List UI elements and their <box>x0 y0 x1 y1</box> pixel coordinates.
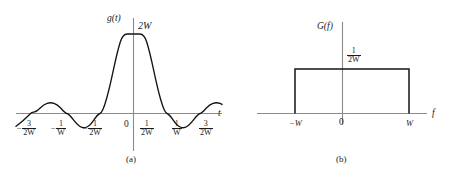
fraction: 1W <box>172 120 182 138</box>
fraction-denominator: 2W <box>140 129 154 137</box>
panel-a-xtick-3-2w: 32W <box>199 120 213 138</box>
fraction-denominator: W <box>172 129 182 137</box>
panel-a-y-axis-label: g(t) <box>107 14 121 24</box>
panel-a-peak-label: 2W <box>138 21 151 31</box>
panel-b-caption: (b) <box>336 155 347 164</box>
panel-b-x-axis-label: f <box>432 109 435 119</box>
panel-a-x-axis-label: t <box>218 109 221 119</box>
fraction: 32W <box>199 120 213 138</box>
fraction-denominator: 2W <box>347 56 361 64</box>
panel-a-caption: (a) <box>126 155 136 164</box>
fraction-denominator: 2W <box>199 129 213 137</box>
panel-a-xtick-1-w: 1W <box>172 120 182 138</box>
panel-a-sinc-plot: g(t) 2W t −32W −1W −12W 0 12W 1W 32W <box>0 0 232 183</box>
figure-root: g(t) 2W t −32W −1W −12W 0 12W 1W 32W <box>0 0 463 183</box>
panel-a-svg <box>0 0 232 183</box>
panel-a-xtick-1-2w: 12W <box>140 120 154 138</box>
fraction: 12W <box>88 120 102 138</box>
fraction: 1W <box>56 120 66 138</box>
fraction: 32W <box>22 120 36 138</box>
panel-b-origin-label: 0 <box>339 118 344 128</box>
panel-b-svg <box>232 0 463 183</box>
panel-b-xtick-w: W <box>406 119 413 128</box>
fraction-denominator: 2W <box>22 129 36 137</box>
fraction-denominator: 2W <box>88 129 102 137</box>
fraction: 12W <box>140 120 154 138</box>
panel-b-rect-plot: G(f) 12W f −W 0 W (b) <box>232 0 463 183</box>
panel-a-xtick--3-2w: −32W <box>17 120 36 138</box>
panel-b-xtick--w: −W <box>289 119 302 128</box>
panel-b-y-axis-label: G(f) <box>317 22 333 32</box>
fraction-denominator: W <box>56 129 66 137</box>
panel-b-height-label: 12W <box>347 47 361 65</box>
panel-a-xtick--1-w: −1W <box>51 120 66 138</box>
panel-a-xtick--1-2w: −12W <box>83 120 102 138</box>
panel-b-rect-curve <box>295 69 409 114</box>
panel-a-origin-label: 0 <box>124 120 129 130</box>
fraction: 12W <box>347 47 361 65</box>
